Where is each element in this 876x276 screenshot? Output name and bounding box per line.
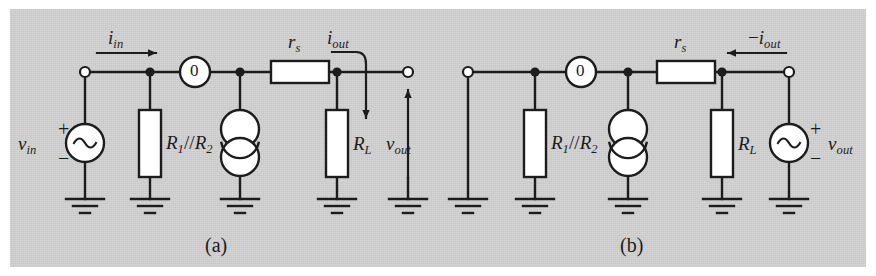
ground-b-rl	[703, 199, 741, 213]
label-i-in: iin	[108, 28, 123, 50]
label-b-bias-resistor: R1//R2	[551, 133, 598, 155]
terminal-a-input	[80, 67, 90, 77]
caption-panel-a: (a)	[205, 235, 227, 255]
node-a-load	[332, 67, 341, 76]
label-b-load-resistor: RL	[738, 134, 757, 156]
ground-a-dep	[221, 199, 259, 213]
label-a-v-out: vout	[386, 134, 411, 156]
dependent-source-a	[221, 110, 259, 176]
node-a-bias	[145, 67, 154, 76]
label-a-load-resistor: RL	[353, 134, 372, 156]
resistor-b-load	[711, 110, 733, 177]
ground-a-rl	[318, 199, 356, 213]
caption-panel-b: (b)	[620, 235, 643, 255]
circuit-b-group	[449, 53, 808, 213]
label-b-v-out: vout	[828, 134, 853, 156]
resistor-a-bias	[139, 110, 161, 177]
terminal-b-input	[463, 67, 473, 77]
sign-b-vout-plus: +	[810, 119, 821, 139]
sign-a-vin-minus: −	[58, 148, 69, 168]
circuit-a-group	[66, 52, 427, 213]
ac-source-a-vin	[66, 124, 104, 162]
resistor-a-series	[271, 61, 329, 83]
ground-a-vout-ref	[389, 199, 427, 213]
dependent-source-b	[609, 110, 647, 176]
node-b-dep	[623, 67, 632, 76]
label-a-series-resistor: rs	[288, 32, 300, 54]
label-b-neg-i-out: −iout	[748, 28, 781, 50]
node-b-bias	[530, 67, 539, 76]
ground-a-rbias	[131, 199, 169, 213]
resistor-b-bias	[524, 110, 546, 177]
sign-b-vout-minus: −	[810, 148, 821, 168]
ground-b-dep	[609, 199, 647, 213]
resistor-a-load	[326, 110, 348, 177]
terminal-b-output	[784, 67, 794, 77]
ground-b-vout	[770, 199, 808, 213]
sign-a-vin-plus: +	[58, 119, 69, 139]
ac-source-b-vout	[770, 124, 808, 162]
label-a-zero-source: 0	[190, 62, 199, 79]
terminal-a-output	[403, 67, 413, 77]
ground-b-rbias	[516, 199, 554, 213]
node-a-dep	[235, 67, 244, 76]
label-v-in: vin	[18, 134, 37, 156]
label-i-out: iout	[327, 28, 349, 50]
label-b-series-resistor: rs	[674, 32, 686, 54]
ground-b-left	[449, 199, 487, 213]
ground-a-vin	[66, 199, 104, 213]
label-a-bias-resistor: R1//R2	[166, 133, 213, 155]
circuit-figure: iin vin + − 0 R1//R2 rs iout RL vout (a)…	[0, 0, 876, 276]
node-b-load	[717, 67, 726, 76]
resistor-b-series	[657, 61, 715, 83]
label-b-zero-source: 0	[576, 62, 585, 79]
